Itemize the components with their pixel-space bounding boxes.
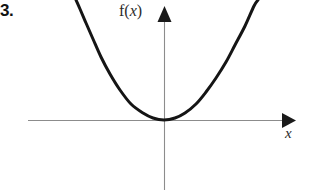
fx-variable: x (130, 2, 137, 19)
fx-prefix: f( (119, 2, 130, 19)
figure-container: 3. f(x) x (0, 0, 309, 190)
fx-suffix: ) (137, 2, 142, 19)
y-axis-function-label: f(x) (119, 3, 142, 19)
y-axis-arrowhead (158, 6, 172, 22)
problem-number-label: 3. (0, 2, 13, 19)
x-axis-variable-label: x (285, 126, 292, 141)
parabola-plot (0, 0, 309, 190)
